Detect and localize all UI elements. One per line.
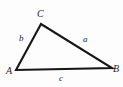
side-label-b: b (19, 34, 24, 43)
vertex-label-c: C (37, 9, 44, 19)
triangle-outline (16, 24, 112, 70)
triangle-figure: A B C a b c (0, 0, 123, 87)
vertex-label-a: A (6, 66, 12, 76)
vertex-label-b: B (113, 64, 119, 74)
side-label-c: c (59, 74, 63, 83)
side-label-a: a (83, 35, 88, 44)
